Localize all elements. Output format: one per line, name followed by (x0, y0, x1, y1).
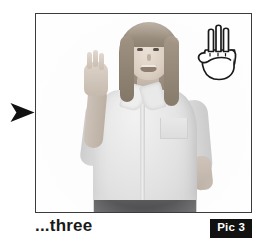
right-arrow-pointer-icon (9, 99, 36, 126)
subject-hair-side-right (164, 36, 179, 106)
caption-text: ...three (35, 216, 92, 236)
subject-finger-ring (99, 53, 104, 70)
subject-nose (147, 54, 151, 61)
pic-number-badge: Pic 3 (210, 219, 252, 238)
caption-row: ...three Pic 3 (35, 214, 252, 242)
subject-torso (93, 90, 197, 212)
page-canvas: ...three Pic 3 (0, 0, 268, 245)
subject-hair-side-left (120, 36, 134, 102)
subject-mouth (140, 65, 157, 72)
subject-finger-index (87, 52, 92, 69)
subject-trousers (94, 200, 196, 212)
subject-eye-right (153, 48, 159, 51)
hand-three-fingers-icon (191, 20, 245, 84)
shirt-placket (140, 96, 145, 212)
subject-eye-left (137, 48, 143, 51)
picture-frame (35, 13, 252, 213)
subject-finger-middle (93, 50, 98, 67)
shirt-pocket (160, 118, 188, 139)
